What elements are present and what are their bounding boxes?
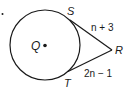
problem-marker-dot xyxy=(2,13,4,15)
label-q: Q xyxy=(31,39,40,53)
label-s: S xyxy=(67,5,75,17)
label-t: T xyxy=(64,77,72,89)
center-point-q xyxy=(43,44,47,48)
label-segment-tr: 2n − 1 xyxy=(84,68,113,79)
label-segment-sr: n + 3 xyxy=(91,22,114,33)
label-r: R xyxy=(115,44,123,56)
tangent-diagram: Q S T R n + 3 2n − 1 xyxy=(0,0,129,100)
